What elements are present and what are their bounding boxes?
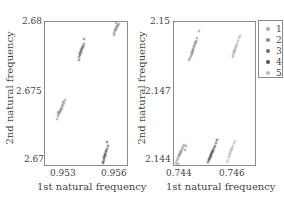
legend-entry-1: 1 — [259, 23, 282, 34]
legend-entry-5: 5 — [259, 67, 282, 78]
legend-label: 4 — [276, 57, 282, 67]
legend-label: 2 — [276, 35, 282, 45]
legend-marker-icon — [266, 60, 270, 64]
legend-label: 5 — [276, 68, 282, 78]
legend-marker-icon — [266, 27, 270, 31]
legend-marker-icon — [266, 71, 270, 75]
legend-entry-2: 2 — [259, 34, 282, 45]
legend-label: 1 — [276, 24, 282, 34]
legend-marker-icon — [266, 49, 270, 53]
right-scatter-points — [0, 0, 284, 197]
legend-marker-icon — [266, 38, 270, 42]
legend: 1 2 3 4 5 — [258, 20, 283, 78]
legend-entry-4: 4 — [259, 56, 282, 67]
legend-entry-3: 3 — [259, 45, 282, 56]
legend-label: 3 — [276, 46, 282, 56]
